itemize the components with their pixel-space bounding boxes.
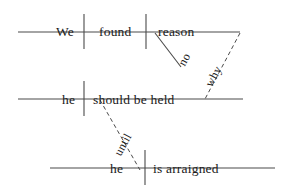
sentence-diagram: Wefoundreasonnowhyheshould be helduntilh… (0, 0, 287, 194)
word-found: found (99, 25, 132, 39)
word-he-2: he (110, 162, 123, 176)
word-he-1: he (62, 93, 75, 107)
word-reason: reason (158, 25, 194, 39)
word-should-be-held: should be held (93, 93, 175, 107)
word-we: We (56, 25, 74, 39)
word-is-arraigned: is arraigned (153, 162, 219, 176)
